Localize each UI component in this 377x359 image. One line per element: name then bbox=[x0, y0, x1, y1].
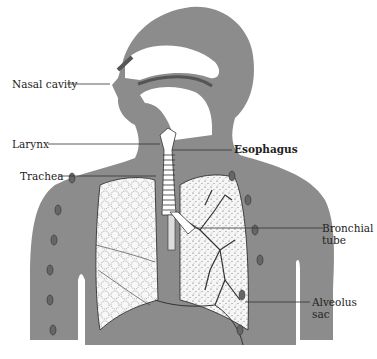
label-nasal-cavity: Nasal cavity bbox=[12, 78, 77, 90]
label-larynx: Larynx bbox=[12, 138, 49, 150]
label-bronchial-line1: Bronchial bbox=[322, 222, 373, 234]
label-alveolus-line2: sac bbox=[312, 308, 357, 320]
label-esophagus: Esophagus bbox=[234, 143, 298, 155]
label-bronchial-line2: tube bbox=[322, 234, 373, 246]
label-alveolus-line1: Alveolus bbox=[312, 296, 357, 308]
esophagus-tube bbox=[168, 215, 175, 250]
label-bronchial-tube: Bronchial tube bbox=[322, 222, 373, 246]
label-alveolus-sac: Alveolus sac bbox=[312, 296, 357, 320]
label-trachea: Trachea bbox=[20, 170, 63, 182]
